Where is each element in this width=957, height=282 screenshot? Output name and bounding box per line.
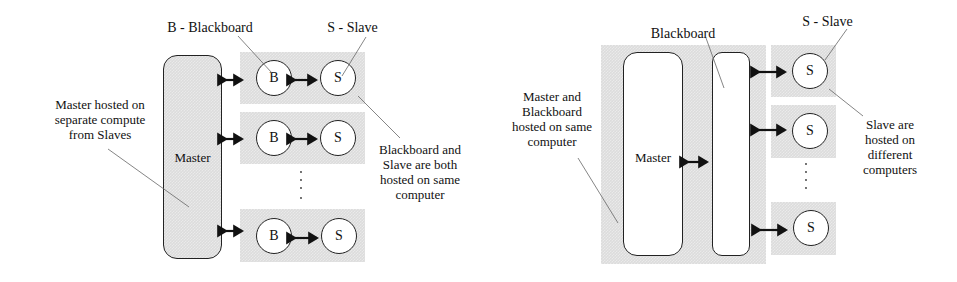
ellipsis-dots <box>300 163 807 199</box>
leader-lines <box>108 29 863 223</box>
connectors <box>0 0 957 282</box>
double-arrows <box>226 72 786 238</box>
